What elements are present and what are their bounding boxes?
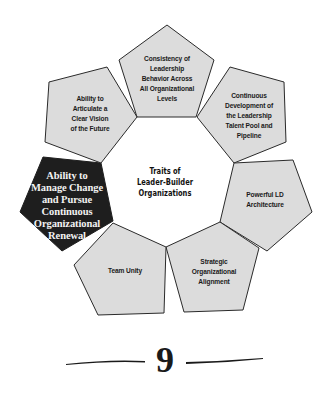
footer-rule-left [66,360,145,365]
trait-label-powerful-ld: Powerful LD Architecture [235,190,295,210]
footer-rule-right [186,358,263,364]
trait-label-consistency: Consistency of Leadership Behavior Acros… [128,54,206,104]
trait-label-strategic-alignment: Strategic Organizational Alignment [182,257,246,287]
trait-label-continuous-development: Continuous Development of the Leadership… [213,91,285,141]
center-title: Traits of Leader-Builder Organizations [132,166,198,199]
page-number: 9 [151,340,179,380]
trait-label-articulate-vision: Ability to Articulate a Clear Vision of … [58,94,122,134]
trait-label-manage-change: Ability to Manage Change and Pursue Cont… [26,170,108,242]
trait-label-team-unity: Team Unity [95,266,155,276]
